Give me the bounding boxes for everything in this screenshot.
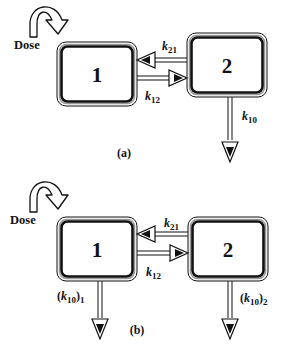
k21-label: k21 — [162, 39, 178, 55]
k21-label: k21 — [164, 216, 180, 232]
dose-label: Dose — [14, 38, 40, 52]
compartment-label: 2 — [222, 54, 233, 78]
two-compartment-diagram: Dose 1 2 k21 k12 k10 (a) — [0, 0, 285, 347]
dose-label: Dose — [10, 213, 36, 227]
compartment-1: 1 — [57, 42, 137, 106]
k21-arrow-icon — [137, 52, 187, 68]
k10-2-elimination-arrow-icon — [222, 281, 238, 339]
k21-arrow-icon — [137, 226, 188, 242]
k12-arrow-icon — [137, 245, 188, 261]
panel-caption: (b) — [130, 323, 145, 337]
dose-arrow-icon — [30, 7, 68, 37]
k12-label: k12 — [146, 265, 162, 281]
k10-label: k10 — [242, 109, 258, 125]
dose-arrow-icon — [30, 182, 68, 212]
panel-a: Dose 1 2 k21 k12 k10 (a) — [14, 7, 267, 162]
k10-1-label: (k10)1 — [57, 289, 85, 305]
compartment-label: 2 — [223, 238, 234, 262]
k10-elimination-arrow-icon — [222, 97, 238, 162]
k12-arrow-icon — [137, 70, 187, 86]
k10-1-elimination-arrow-icon — [92, 281, 108, 339]
panel-caption: (a) — [117, 146, 131, 160]
compartment-label: 1 — [92, 63, 103, 87]
k12-label: k12 — [145, 89, 161, 105]
compartment-1: 1 — [57, 217, 137, 281]
compartment-2: 2 — [188, 217, 268, 281]
compartment-2: 2 — [187, 33, 267, 97]
compartment-label: 1 — [92, 238, 103, 262]
panel-b: Dose 1 2 k21 k12 (k10)1 — [10, 182, 268, 339]
k10-2-label: (k10)2 — [240, 291, 268, 307]
